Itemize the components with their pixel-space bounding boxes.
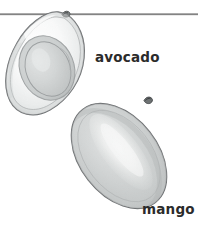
avocado-label: avocado	[95, 51, 160, 65]
mango-label: mango	[142, 203, 195, 217]
illustration-canvas: avocado mango	[0, 0, 198, 228]
horizontal-divider	[0, 14, 198, 15]
fruit-illustration	[0, 0, 198, 228]
